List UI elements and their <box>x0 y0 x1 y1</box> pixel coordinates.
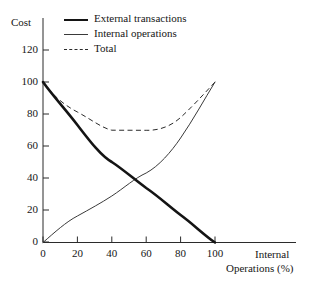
y-axis-title: Cost <box>11 16 31 28</box>
x-tick-label-40: 40 <box>96 248 128 259</box>
x-tick-label-0: 0 <box>27 248 59 259</box>
series-internal-operations-line <box>43 82 215 243</box>
y-tick-label-80: 80 <box>0 108 38 119</box>
legend-swatch-dashed-line-icon <box>64 43 88 55</box>
x-axis-title-line1: Internal <box>255 248 289 260</box>
chart-legend: External transactions Internal operation… <box>64 12 187 55</box>
legend-item-internal-operations: Internal operations <box>64 27 187 40</box>
legend-label-internal-operations: Internal operations <box>94 28 177 39</box>
x-axis-title-line2: Operations (%) <box>226 262 294 274</box>
legend-item-total: Total <box>64 42 187 55</box>
legend-swatch-thick-line-icon <box>64 13 88 25</box>
y-tick-label-120: 120 <box>0 44 38 55</box>
legend-swatch-thin-line-icon <box>64 28 88 40</box>
x-axis-ticks <box>43 237 215 243</box>
legend-item-external-transactions: External transactions <box>64 12 187 25</box>
series-total-line <box>43 82 215 130</box>
series-external-transactions-line <box>43 82 215 243</box>
x-tick-label-20: 20 <box>61 248 93 259</box>
y-tick-label-60: 60 <box>0 140 38 151</box>
legend-label-total: Total <box>94 43 116 54</box>
y-tick-label-0: 0 <box>0 236 38 247</box>
legend-label-external-transactions: External transactions <box>94 13 187 24</box>
x-tick-label-100: 100 <box>199 248 231 259</box>
x-tick-label-60: 60 <box>130 248 162 259</box>
x-tick-label-80: 80 <box>165 248 197 259</box>
chart-figure: External transactions Internal operation… <box>0 0 318 281</box>
y-tick-label-40: 40 <box>0 172 38 183</box>
y-tick-label-20: 20 <box>0 204 38 215</box>
y-tick-label-100: 100 <box>0 76 38 87</box>
y-axis-ticks <box>43 50 49 242</box>
